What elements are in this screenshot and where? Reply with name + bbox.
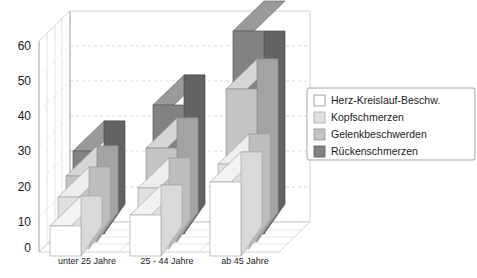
ytick-10: 10	[18, 215, 32, 229]
ytick-40: 40	[18, 109, 32, 123]
legend-swatch-gelenkbeschwerden	[314, 129, 325, 140]
legend-label-gelenkbeschwerden: Gelenkbeschwerden	[331, 128, 427, 140]
legend-label-herz-kreislauf-beschw: Herz-Kreislauf-Beschw.	[331, 94, 440, 106]
category-label-1: 25 - 44 Jahre	[140, 256, 193, 266]
legend-swatch-rueckenschmerzen	[314, 146, 325, 157]
legend-swatch-kopfschmerzen	[314, 112, 325, 123]
ytick-50: 50	[18, 74, 32, 88]
category-label-0: unter 25 Jahre	[58, 256, 116, 266]
ytick-30: 30	[18, 144, 32, 158]
y-axis-labels: 60 50 40 30 20 10 0	[18, 39, 32, 255]
x-axis-labels: unter 25 Jahre 25 - 44 Jahre ab 45 Jahre	[58, 256, 269, 266]
bar-chart-3d: 60 50 40 30 20 10 0	[0, 0, 477, 278]
legend-label-kopfschmerzen: Kopfschmerzen	[331, 111, 404, 123]
legend-item-gelenkbeschwerden[interactable]: Gelenkbeschwerden	[314, 128, 427, 140]
ytick-20: 20	[18, 180, 32, 194]
ytick-60: 60	[18, 39, 32, 53]
chart-container: 60 50 40 30 20 10 0	[0, 0, 477, 278]
legend: Herz-Kreislauf-Beschw. Kopfschmerzen Gel…	[307, 88, 475, 160]
legend-swatch-herz-kreislauf-beschw	[314, 95, 325, 106]
category-label-2: ab 45 Jahre	[221, 256, 269, 266]
legend-label-rueckenschmerzen: Rückenschmerzen	[331, 145, 418, 157]
ytick-0: 0	[24, 241, 31, 255]
legend-item-herz-kreislauf-beschw[interactable]: Herz-Kreislauf-Beschw.	[314, 94, 440, 106]
